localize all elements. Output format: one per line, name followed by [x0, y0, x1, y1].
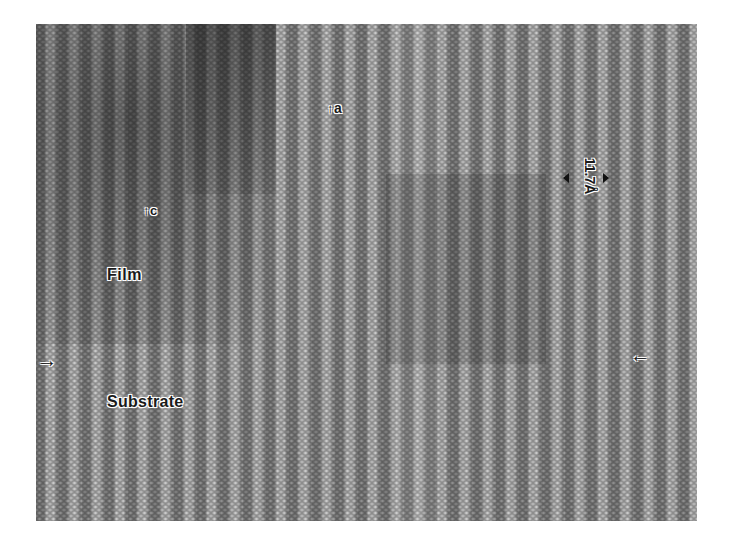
- c-axis-label: ↑c: [143, 203, 157, 218]
- lattice-spacing-label: 11.7Å: [582, 146, 598, 206]
- film-label: Film: [107, 266, 142, 284]
- a-axis-label: ↑a: [327, 100, 342, 116]
- light-band-shading: [396, 24, 436, 521]
- substrate-label: Substrate: [107, 393, 184, 411]
- dark-band-shading: [186, 24, 276, 194]
- interface-arrow-left-icon: →: [37, 350, 57, 370]
- spacing-marker-right-icon: [603, 173, 609, 183]
- spacing-marker-left-icon: [563, 173, 569, 183]
- up-arrow-icon: ↑: [143, 204, 149, 218]
- up-arrow-icon: ↑: [327, 102, 333, 116]
- interface-arrow-right-icon: ←: [630, 345, 650, 365]
- c-axis-text: c: [150, 203, 157, 218]
- a-axis-text: a: [334, 100, 342, 116]
